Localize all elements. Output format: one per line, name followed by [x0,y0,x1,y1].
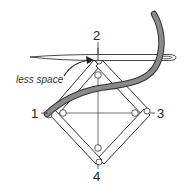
corner-label-4: 4 [93,169,100,184]
stick-bottom-left [48,109,102,164]
needle [30,48,176,61]
pin-right [132,110,139,117]
corner-label-3: 3 [157,106,164,121]
pin-top [95,72,102,79]
pin-bottom [95,145,102,152]
pin-left [60,110,67,117]
frame-diagram: 2 1 3 4 less space [0,0,185,189]
stick-bottom-right [98,109,150,164]
corner-label-2: 2 [93,28,100,43]
corner-label-1: 1 [31,106,38,121]
less-space-annotation: less space [16,74,64,85]
